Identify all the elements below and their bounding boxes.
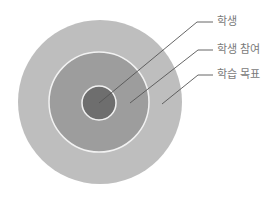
label-student: 학생 [217,16,237,28]
label-student-engagement: 학생 참여 [217,44,261,56]
concentric-circles-diagram [0,0,280,199]
label-learning-goal: 학습 목표 [217,69,261,81]
